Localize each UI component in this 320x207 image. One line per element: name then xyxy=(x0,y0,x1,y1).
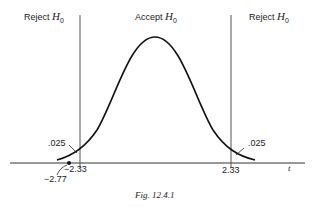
axis-label-t: t xyxy=(288,163,291,173)
observed-value-label: −2.77 xyxy=(44,174,67,184)
right-tail-area: .025 xyxy=(248,138,266,148)
critical-left-label: −2.33 xyxy=(64,164,87,174)
accept-label: Accept H0 xyxy=(135,10,177,24)
critical-right-label: 2.33 xyxy=(222,165,240,175)
reject-left-label: Reject H0 xyxy=(24,10,64,24)
figure-caption: Fig. 12.4.1 xyxy=(135,190,175,200)
density-curve xyxy=(57,37,255,160)
left-tail-pointer xyxy=(69,145,77,153)
left-tail-area: .025 xyxy=(48,138,66,148)
reject-right-label: Reject H0 xyxy=(249,10,289,24)
